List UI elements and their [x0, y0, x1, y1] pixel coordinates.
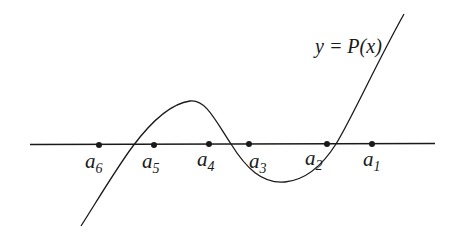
point-marker-a6 [96, 142, 102, 148]
point-label-a4: a4 [197, 149, 215, 174]
polynomial-diagram [0, 0, 459, 240]
point-label-a5: a5 [142, 151, 160, 176]
function-label: y = P(x) [315, 36, 382, 56]
point-marker-a2 [324, 141, 330, 147]
point-marker-a5 [151, 142, 157, 148]
point-marker-a3 [246, 141, 252, 147]
point-label-a1: a1 [363, 149, 381, 174]
point-label-a2: a2 [305, 148, 323, 173]
point-label-a6: a6 [85, 151, 103, 176]
point-label-a3: a3 [249, 151, 267, 176]
